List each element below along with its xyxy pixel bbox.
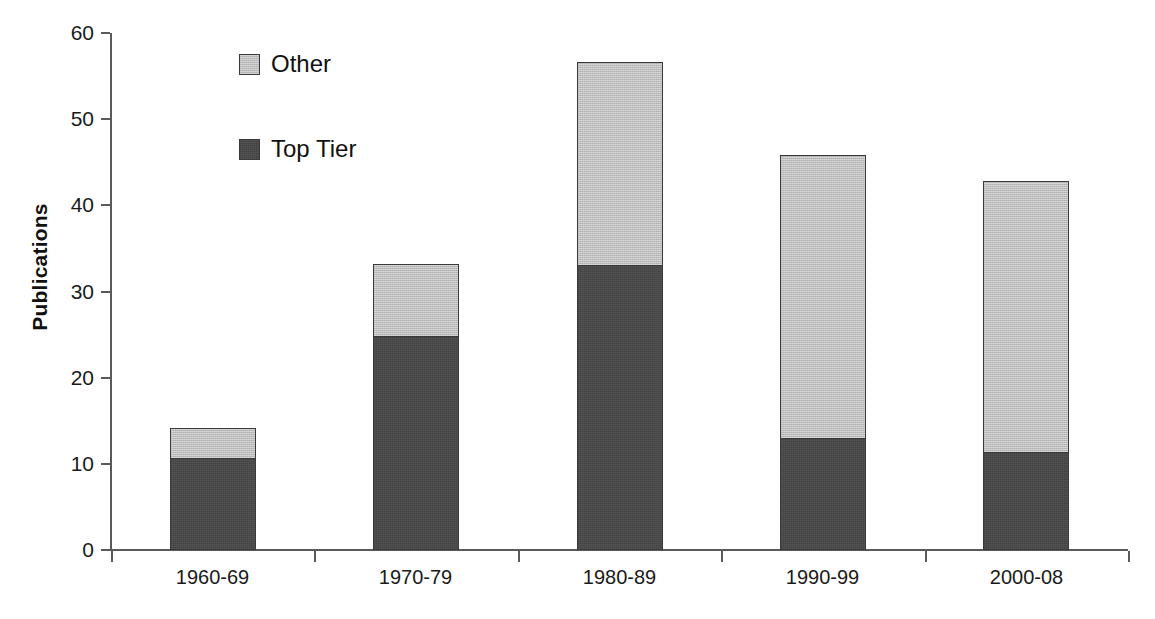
bar-segment-other-1960-69[interactable] xyxy=(170,428,256,459)
bar-segment-other-1980-89[interactable] xyxy=(577,62,663,265)
legend-label-top-tier: Top Tier xyxy=(271,137,356,161)
bar-segment-other-1990-99[interactable] xyxy=(780,155,866,439)
y-tick-mark-0 xyxy=(101,549,110,551)
x-tick-mark-0 xyxy=(111,551,113,562)
y-tick-label-20: 20 xyxy=(34,366,94,390)
bar-group-1970-79[interactable] xyxy=(373,0,459,550)
legend-item-top-tier[interactable]: Top Tier xyxy=(239,137,356,161)
y-tick-mark-20 xyxy=(101,377,110,379)
y-tick-mark-10 xyxy=(101,463,110,465)
y-tick-label-50: 50 xyxy=(34,107,94,131)
y-tick-mark-40 xyxy=(101,204,110,206)
y-tick-mark-60 xyxy=(101,32,110,34)
x-category-label-2000-08: 2000-08 xyxy=(925,566,1128,589)
bar-segment-top-tier-1970-79[interactable] xyxy=(373,336,459,550)
bar-group-1990-99[interactable] xyxy=(780,0,866,550)
publications-stacked-bar-chart: Publications 0102030405060 1960-691970-7… xyxy=(0,0,1155,619)
bar-segment-top-tier-1960-69[interactable] xyxy=(170,458,256,550)
legend-label-other: Other xyxy=(271,52,331,76)
x-tick-mark-4 xyxy=(925,551,927,562)
bar-group-2000-08[interactable] xyxy=(983,0,1069,550)
x-tick-mark-1 xyxy=(314,551,316,562)
x-category-label-1960-69: 1960-69 xyxy=(111,566,314,589)
y-tick-label-0: 0 xyxy=(34,538,94,562)
x-tick-mark-3 xyxy=(721,551,723,562)
bar-segment-top-tier-1980-89[interactable] xyxy=(577,265,663,550)
bar-segment-top-tier-2000-08[interactable] xyxy=(983,452,1069,550)
y-tick-label-60: 60 xyxy=(34,21,94,45)
y-tick-label-30: 30 xyxy=(34,280,94,304)
bar-segment-top-tier-1990-99[interactable] xyxy=(780,438,866,550)
x-category-label-1970-79: 1970-79 xyxy=(314,566,517,589)
bar-group-1960-69[interactable] xyxy=(170,0,256,550)
bar-group-1980-89[interactable] xyxy=(577,0,663,550)
y-tick-label-40: 40 xyxy=(34,193,94,217)
x-tick-mark-5 xyxy=(1128,551,1130,562)
bar-segment-other-2000-08[interactable] xyxy=(983,181,1069,453)
legend-swatch-top-tier-icon xyxy=(239,139,260,160)
y-tick-mark-50 xyxy=(101,118,110,120)
bar-segment-other-1970-79[interactable] xyxy=(373,264,459,337)
x-tick-mark-2 xyxy=(518,551,520,562)
y-tick-mark-30 xyxy=(101,291,110,293)
legend-item-other[interactable]: Other xyxy=(239,52,331,76)
y-tick-label-10: 10 xyxy=(34,452,94,476)
y-axis-line xyxy=(110,33,112,551)
x-category-label-1990-99: 1990-99 xyxy=(721,566,924,589)
legend-swatch-other-icon xyxy=(239,54,260,75)
x-category-label-1980-89: 1980-89 xyxy=(518,566,721,589)
